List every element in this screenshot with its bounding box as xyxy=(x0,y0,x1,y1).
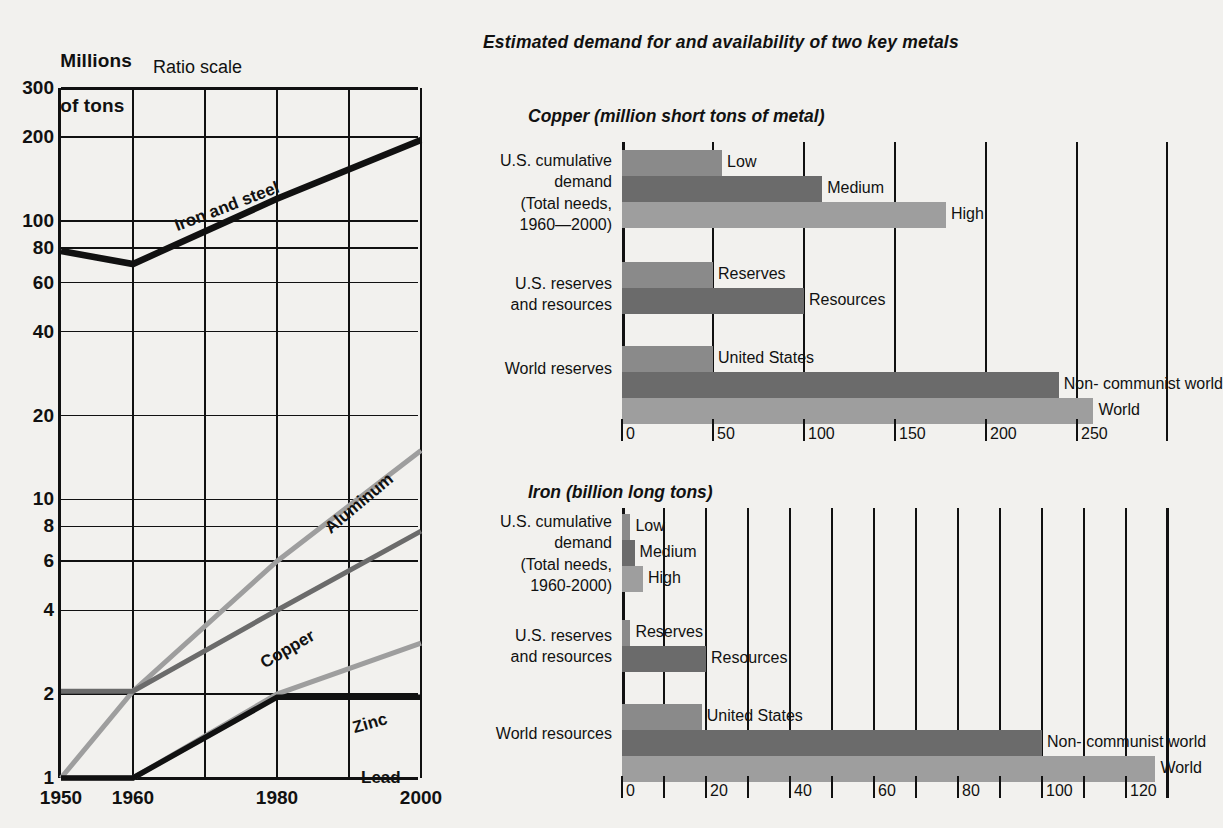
bar-value-label: Medium xyxy=(640,543,697,561)
bar-value-label: Medium xyxy=(827,179,884,197)
bar-world xyxy=(622,398,1093,424)
axis-tick xyxy=(789,776,791,798)
line-chart-panel: Millions of tons Ratio scale 30020010080… xyxy=(0,0,450,828)
axis-tick-end xyxy=(1166,419,1168,441)
series-label-lead: Lead xyxy=(361,768,401,788)
bar-high xyxy=(622,202,946,228)
x-tick-label: 1980 xyxy=(256,787,298,809)
axis-tick xyxy=(831,776,833,798)
bar-low xyxy=(622,514,630,540)
bar-group-label: World resources xyxy=(430,723,612,744)
axis-tick-label: 0 xyxy=(626,425,635,443)
x-tick-label: 1950 xyxy=(40,787,82,809)
axis-tick xyxy=(873,776,875,798)
bar-value-label: World xyxy=(1098,401,1140,419)
page-title: Estimated demand for and availability of… xyxy=(483,32,959,53)
axis-tick xyxy=(1125,776,1127,798)
bar-world xyxy=(622,756,1155,782)
axis-tick-end xyxy=(1166,776,1168,798)
bar-united-states xyxy=(622,346,713,372)
y-tick-label: 10 xyxy=(33,488,54,510)
axis-tick xyxy=(803,419,805,441)
y-tick-label: 40 xyxy=(33,321,54,343)
y-tick-label: 1 xyxy=(43,767,54,789)
y-tick-label: 100 xyxy=(22,210,54,232)
bar-value-label: Resources xyxy=(809,291,885,309)
bar-group-label: World reserves xyxy=(430,358,612,379)
y-tick-label: 6 xyxy=(43,550,54,572)
y-tick-label: 8 xyxy=(43,515,54,537)
bar-medium xyxy=(622,540,635,566)
y-tick-label: 60 xyxy=(33,272,54,294)
axis-tick-label: 100 xyxy=(1046,782,1073,800)
axis-tick-label: 20 xyxy=(710,782,728,800)
line-chart-plot-area: 3002001008060402010864211950196019802000… xyxy=(58,88,418,778)
ratio-scale-note: Ratio scale xyxy=(153,57,242,78)
axis-tick-label: 80 xyxy=(962,782,980,800)
bar-value-label: Low xyxy=(727,153,756,171)
axis-tick-label: 120 xyxy=(1130,782,1157,800)
bar-value-label: High xyxy=(648,569,681,587)
y-tick-label: 20 xyxy=(33,405,54,427)
bar-value-label: Non- communist world xyxy=(1047,733,1206,751)
bar-reserves xyxy=(622,262,713,288)
bar-value-label: High xyxy=(951,205,984,223)
bar-group-label: U.S. cumulative demand (Total needs, 196… xyxy=(430,511,612,596)
y-tick-label: 80 xyxy=(33,237,54,259)
bar-charts-panel: Estimated demand for and availability of… xyxy=(430,0,1187,828)
axis-tick xyxy=(957,776,959,798)
bar-group-label: U.S. cumulative demand (Total needs, 196… xyxy=(430,150,612,235)
axis-tick-label: 200 xyxy=(990,425,1017,443)
y-tick-label: 4 xyxy=(43,599,54,621)
iron-chart-title: Iron (billion long tons) xyxy=(528,482,713,503)
bar-value-label: United States xyxy=(718,349,814,367)
copper-bar-chart: LowMediumHighReservesResourcesUnited Sta… xyxy=(622,142,1168,419)
axis-tick xyxy=(621,776,623,798)
axis-tick-label: 250 xyxy=(1081,425,1108,443)
axis-tick xyxy=(747,776,749,798)
bar-value-label: Reserves xyxy=(635,623,703,641)
axis-tick xyxy=(1041,776,1043,798)
axis-tick-label: 40 xyxy=(794,782,812,800)
bar-value-label: World xyxy=(1160,759,1202,777)
axis-tick-label: 50 xyxy=(717,425,735,443)
bar-low xyxy=(622,150,722,176)
bar-high xyxy=(622,566,643,592)
axis-tick xyxy=(999,776,1001,798)
y-tick-label: 2 xyxy=(43,683,54,705)
axis-tick xyxy=(705,776,707,798)
bar-non-communist-world xyxy=(622,372,1059,398)
bar-united-states xyxy=(622,704,702,730)
axis-tick-label: 0 xyxy=(626,782,635,800)
axis-tick xyxy=(663,776,665,798)
bar-group-label: U.S. reserves and resources xyxy=(430,625,612,668)
y-tick-label: 200 xyxy=(22,126,54,148)
axis-title-line1: Millions xyxy=(60,50,132,71)
axis-tick xyxy=(1076,419,1078,441)
bar-value-label: Low xyxy=(635,517,664,535)
axis-tick xyxy=(915,776,917,798)
bar-value-label: Non- communist world xyxy=(1064,375,1223,393)
bar-value-label: Reserves xyxy=(718,265,786,283)
copper-chart-title: Copper (million short tons of metal) xyxy=(528,106,825,127)
y-tick-label: 300 xyxy=(22,77,54,99)
bar-resources xyxy=(622,646,706,672)
line-series-copper xyxy=(61,531,421,691)
x-tick-label: 1960 xyxy=(112,787,154,809)
axis-tick-label: 60 xyxy=(878,782,896,800)
bar-group-label: U.S. reserves and resources xyxy=(430,273,612,316)
bar-reserves xyxy=(622,620,630,646)
iron-bar-chart: LowMediumHighReservesResourcesUnited Sta… xyxy=(622,508,1168,776)
axis-tick xyxy=(1083,776,1085,798)
axis-tick xyxy=(894,419,896,441)
bar-value-label: United States xyxy=(707,707,803,725)
axis-tick xyxy=(712,419,714,441)
bar-value-label: Resources xyxy=(711,649,787,667)
axis-tick-label: 150 xyxy=(899,425,926,443)
axis-tick xyxy=(621,419,623,441)
axis-tick-label: 100 xyxy=(808,425,835,443)
bar-medium xyxy=(622,176,822,202)
bar-non-communist-world xyxy=(622,730,1042,756)
axis-tick xyxy=(985,419,987,441)
